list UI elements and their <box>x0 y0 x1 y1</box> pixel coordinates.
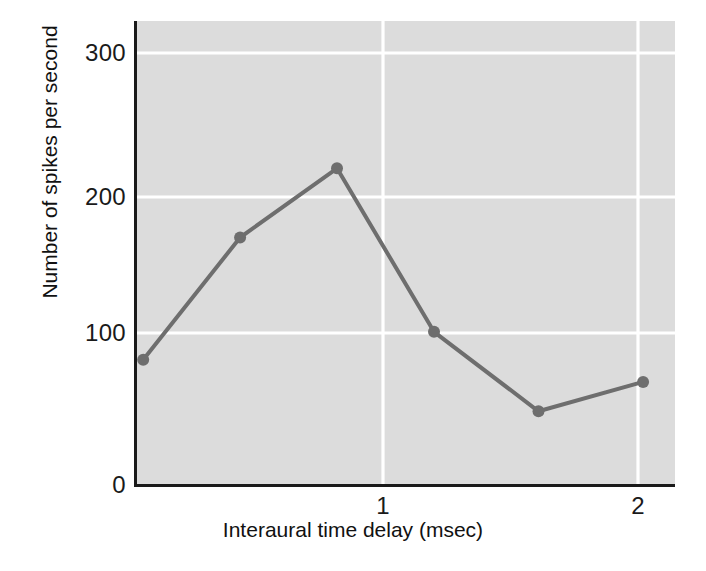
data-point-5 <box>533 405 545 417</box>
plot-background <box>134 21 675 485</box>
data-point-4 <box>428 326 440 338</box>
data-point-1 <box>137 354 149 366</box>
y-tick-0: 0 <box>44 473 126 497</box>
y-tick-label-0: 0 <box>44 473 126 497</box>
data-point-3 <box>331 162 343 174</box>
chart-figure: 300 200 100 0 1 2 Number of spikes per s… <box>0 0 706 571</box>
y-axis-title: Number of spikes per second <box>38 0 62 332</box>
x-tick-label-1: 1 <box>363 494 403 518</box>
data-point-2 <box>234 232 246 244</box>
data-point-6 <box>637 376 649 388</box>
x-axis-title: Interaural time delay (msec) <box>0 518 706 542</box>
x-tick-label-2: 2 <box>618 494 658 518</box>
